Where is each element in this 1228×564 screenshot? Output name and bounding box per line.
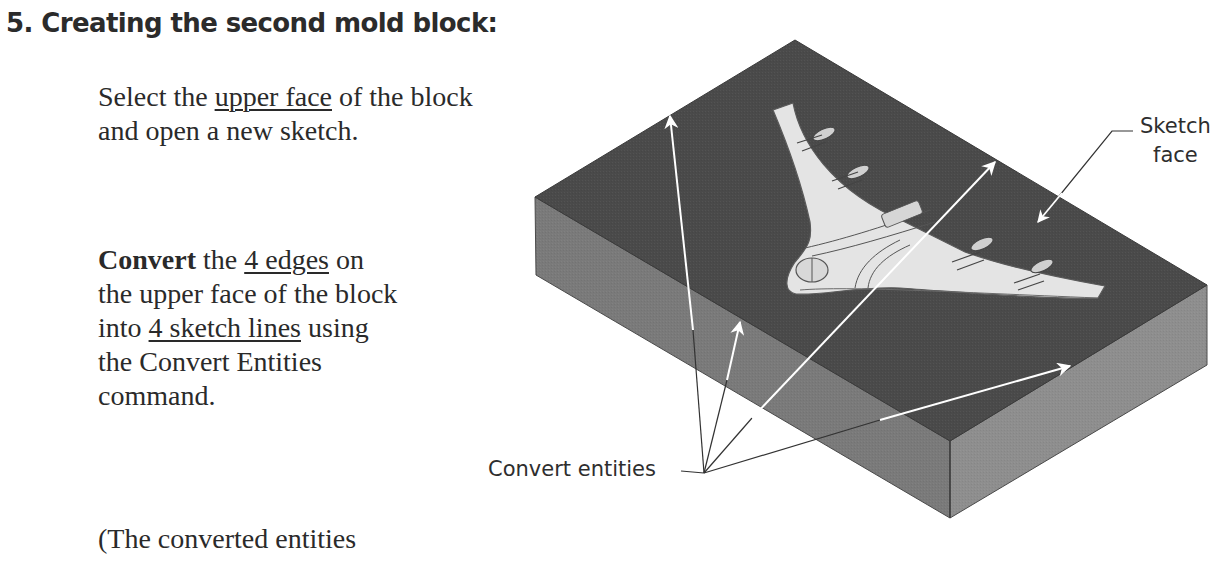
convert-entities-callout: Convert entities: [488, 455, 656, 484]
sketch-face-callout: Sketch face: [1140, 112, 1211, 170]
callout-text: face: [1140, 141, 1211, 170]
callout-text: Sketch: [1140, 112, 1211, 141]
